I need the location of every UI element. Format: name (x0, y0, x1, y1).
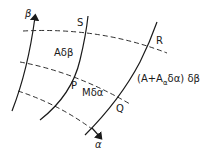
expr-part-open: (A+A (137, 73, 163, 84)
point-R-label: R (156, 36, 163, 46)
expr-part-close: δα) δβ (168, 73, 200, 84)
alpha-arrow (92, 128, 100, 137)
point-Q-label: Q (116, 104, 124, 114)
side-length-right-expression: (A+Aαδα) δβ (137, 74, 200, 87)
dashed-line-bottom (18, 91, 92, 129)
point-P-label: P (71, 81, 77, 91)
point-S-label: S (77, 18, 83, 28)
alpha-axis-label: α (95, 140, 102, 150)
side-length-a-delta-beta: Aδβ (54, 48, 73, 58)
coordinate-diagram: β S R Aδβ P Mδα Q α (A+Aαδα) δβ (0, 0, 222, 159)
side-length-m-delta-alpha: Mδα (82, 88, 103, 98)
beta-axis-label: β (25, 9, 31, 19)
